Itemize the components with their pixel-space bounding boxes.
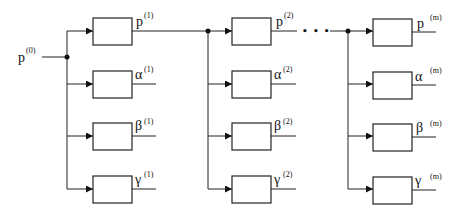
- block-alpha-1: [93, 71, 132, 98]
- block-beta-2: [232, 123, 271, 150]
- output-label: p: [417, 16, 424, 31]
- block-alpha-m: [373, 72, 412, 99]
- block-p-m: [373, 19, 412, 46]
- stage-1: p (1) α (1) β (1) γ (1): [65, 11, 233, 203]
- block-p-1: [93, 18, 132, 45]
- block-gamma-m: [373, 177, 412, 204]
- output-label: β: [135, 118, 142, 133]
- output-superscript: (m): [430, 13, 442, 22]
- junction-dot: [206, 29, 211, 34]
- input-symbol: p: [18, 50, 25, 65]
- block-gamma-2: [232, 176, 271, 203]
- output-label: γ: [134, 172, 141, 187]
- block-p-2: [232, 18, 271, 45]
- output-superscript: (m): [430, 66, 442, 75]
- output-label: α: [135, 67, 143, 82]
- block-beta-1: [93, 123, 132, 150]
- output-superscript: (2): [283, 117, 293, 126]
- output-superscript: (1): [144, 170, 154, 179]
- stage-m: p (m) α (m) β (m) γ (m): [346, 13, 442, 204]
- junction-dot: [346, 29, 351, 34]
- output-superscript: (1): [144, 65, 154, 74]
- output-label: γ: [273, 172, 280, 187]
- output-superscript: (2): [283, 65, 293, 74]
- block-gamma-1: [93, 176, 132, 203]
- output-superscript: (2): [284, 11, 294, 20]
- output-superscript: (m): [430, 172, 442, 181]
- block-diagram: p (0) p (1) α (1) β (1) γ (1): [0, 0, 461, 214]
- block-beta-m: [373, 124, 412, 151]
- output-label: p: [276, 14, 283, 29]
- ellipsis: • • •: [302, 26, 331, 36]
- input-superscript: (0): [26, 46, 36, 55]
- output-label: α: [274, 67, 282, 82]
- junction-dot: [65, 55, 70, 60]
- output-label: α: [415, 69, 423, 84]
- output-label: β: [274, 118, 281, 133]
- output-superscript: (2): [283, 170, 293, 179]
- output-label: β: [416, 120, 423, 135]
- output-label: p: [136, 14, 143, 29]
- block-alpha-2: [232, 71, 271, 98]
- output-label: γ: [414, 173, 421, 188]
- output-superscript: (m): [430, 119, 442, 128]
- input-label: p (0): [18, 46, 36, 65]
- output-superscript: (1): [144, 11, 154, 20]
- output-superscript: (1): [144, 117, 154, 126]
- stage-2: p (2) α (2) β (2) γ (2): [206, 11, 298, 203]
